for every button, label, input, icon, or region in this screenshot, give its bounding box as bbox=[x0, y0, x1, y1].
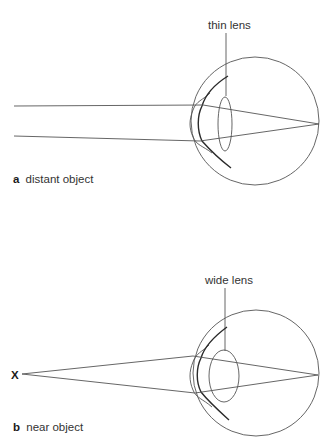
panel-a-caption: a distant object bbox=[13, 173, 94, 185]
panel-b-caption: b near object bbox=[13, 421, 84, 433]
wide-lens-label: wide lens bbox=[204, 274, 253, 286]
parallel-ray-upper bbox=[14, 105, 319, 124]
thin-lens-label: thin lens bbox=[208, 19, 251, 31]
cornea-outer bbox=[190, 93, 212, 153]
parallel-ray-lower bbox=[14, 124, 319, 141]
wide-lens bbox=[209, 350, 239, 402]
thin-lens bbox=[218, 97, 232, 151]
object-marker-x: X bbox=[11, 369, 19, 381]
panel-b-near-object: wide lens X b near object bbox=[11, 274, 319, 436]
panel-b-caption-text: near object bbox=[26, 421, 84, 433]
eye-accommodation-diagram: thin lens a distant object wide lens X b… bbox=[0, 0, 333, 447]
panel-a-caption-text: distant object bbox=[26, 173, 95, 185]
panel-a-distant-object: thin lens a distant object bbox=[13, 19, 319, 185]
diverging-ray-upper bbox=[22, 356, 318, 375]
eyeball-globe bbox=[193, 310, 319, 436]
diverging-ray-lower bbox=[22, 374, 318, 393]
panel-b-letter: b bbox=[13, 421, 20, 433]
panel-a-letter: a bbox=[13, 173, 20, 185]
